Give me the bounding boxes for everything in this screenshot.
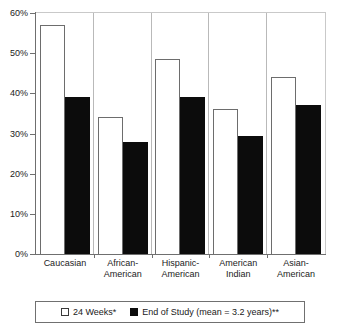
y-axis-tick-mark <box>30 174 35 175</box>
x-axis-category-line: American <box>209 258 267 269</box>
bar-24-weeks <box>40 25 65 254</box>
x-axis-category-line: American <box>94 269 152 280</box>
plot-border-right <box>325 12 326 255</box>
bar-end-of-study <box>238 136 263 254</box>
y-axis-tick-label: 50% <box>10 48 28 58</box>
bar-24-weeks <box>213 109 238 254</box>
x-axis-category-label: Asian-American <box>267 258 325 280</box>
x-axis-category-line: American <box>267 269 325 280</box>
y-axis-tick-label: 30% <box>10 129 28 139</box>
bar-end-of-study <box>123 142 148 254</box>
bar-group <box>267 13 325 254</box>
x-axis-category-line: Indian <box>209 269 267 280</box>
y-axis-tick-label: 40% <box>10 88 28 98</box>
legend-item-24-weeks: 24 Weeks* <box>61 307 116 317</box>
x-axis-category-line: Hispanic- <box>152 258 210 269</box>
y-axis-tick-label: 10% <box>10 209 28 219</box>
bar-24-weeks <box>271 77 296 254</box>
bar-groups <box>36 13 325 254</box>
bar-end-of-study <box>180 97 205 254</box>
bar-end-of-study <box>296 105 321 254</box>
y-axis-tick-mark <box>30 53 35 54</box>
legend-item-end-of-study: End of Study (mean = 3.2 years)** <box>130 307 279 317</box>
y-axis-tick-mark <box>30 13 35 14</box>
white-square-icon <box>61 308 69 316</box>
chart-legend: 24 Weeks* End of Study (mean = 3.2 years… <box>35 301 305 323</box>
x-axis-category-line: American <box>152 269 210 280</box>
bar-end-of-study <box>65 97 90 254</box>
y-axis-tick-label: 20% <box>10 169 28 179</box>
x-axis-category-label: African-American <box>94 258 152 280</box>
black-square-icon <box>130 308 138 316</box>
y-axis-tick-label: 60% <box>10 8 28 18</box>
x-axis-category-label: Caucasian <box>36 258 94 280</box>
bar-24-weeks <box>155 59 180 254</box>
y-axis-tick-mark <box>30 134 35 135</box>
y-axis-tick-mark <box>30 93 35 94</box>
x-axis-category-line: African- <box>94 258 152 269</box>
bar-group <box>36 13 94 254</box>
x-axis-category-label: AmericanIndian <box>209 258 267 280</box>
bar-24-weeks <box>98 117 123 254</box>
bar-group <box>94 13 152 254</box>
bar-chart: 60%50%40%30%20%10%0% CaucasianAfrican-Am… <box>0 0 337 331</box>
y-axis-tick-mark <box>30 214 35 215</box>
y-axis-tick-label: 0% <box>15 249 28 259</box>
x-axis-category-label: Hispanic-American <box>152 258 210 280</box>
legend-label-end-of-study: End of Study (mean = 3.2 years)** <box>142 307 279 317</box>
x-axis-category-line: Caucasian <box>36 258 94 269</box>
bar-group <box>152 13 210 254</box>
legend-label-24-weeks: 24 Weeks* <box>73 307 116 317</box>
x-axis-category-line: Asian- <box>267 258 325 269</box>
x-axis-labels: CaucasianAfrican-AmericanHispanic-Americ… <box>36 258 325 280</box>
y-axis-tick-mark <box>30 254 35 255</box>
bar-group <box>209 13 267 254</box>
